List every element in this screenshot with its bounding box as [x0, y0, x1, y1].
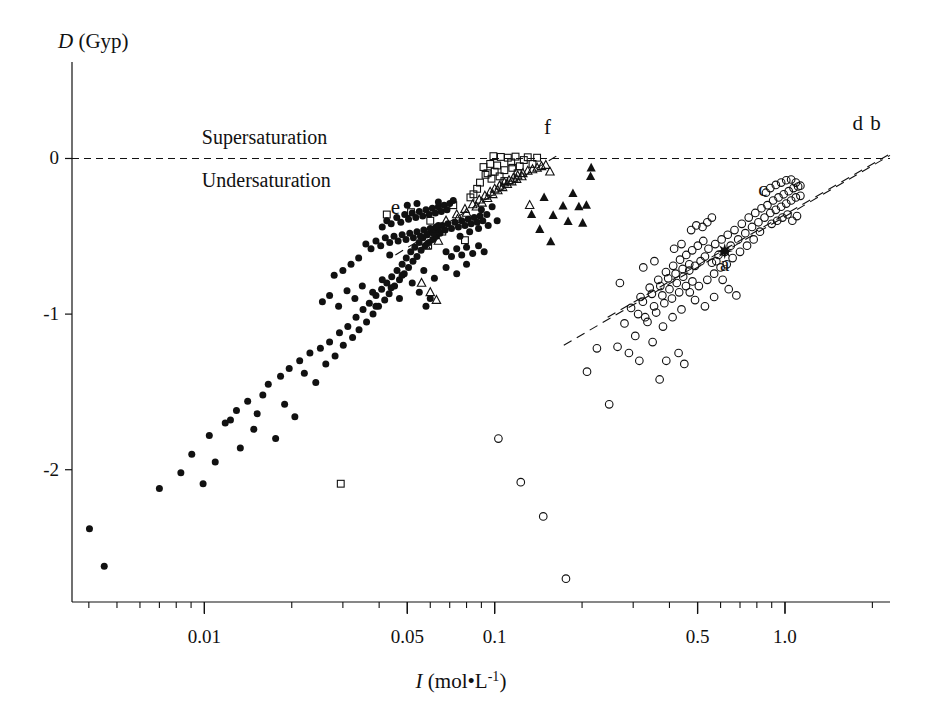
point-filled-circle	[227, 416, 234, 423]
point-filled-circle	[399, 261, 406, 268]
series-open-circle	[495, 176, 805, 583]
point-open-circle	[708, 214, 716, 222]
point-filled-circle	[322, 360, 329, 367]
point-open-circle	[670, 245, 678, 253]
point-filled-circle	[455, 223, 462, 230]
point-open-square	[337, 480, 344, 487]
point-filled-circle	[259, 392, 266, 399]
point-open-circle	[639, 264, 647, 272]
point-filled-circle	[443, 264, 450, 271]
point-open-circle	[738, 220, 746, 228]
point-filled-circle	[86, 525, 93, 532]
point-open-circle	[743, 242, 751, 250]
point-open-circle	[793, 212, 801, 220]
point-open-triangle	[525, 201, 533, 209]
point-filled-circle	[366, 300, 373, 307]
point-filled-circle	[370, 311, 377, 318]
point-filled-circle	[410, 234, 417, 241]
point-filled-circle	[413, 200, 420, 207]
point-filled-circle	[265, 381, 272, 388]
point-filled-circle	[336, 329, 343, 336]
point-filled-circle	[286, 365, 293, 372]
point-open-circle	[625, 349, 633, 357]
point-open-circle	[621, 320, 629, 328]
point-filled-circle	[388, 284, 395, 291]
point-filled-triangle	[540, 192, 549, 201]
point-filled-circle	[405, 264, 412, 271]
point-open-circle	[644, 318, 652, 326]
point-filled-triangle	[574, 202, 583, 211]
point-filled-circle	[306, 350, 313, 357]
point-open-circle	[637, 293, 645, 301]
point-filled-circle	[360, 306, 367, 313]
point-filled-triangle	[535, 224, 544, 233]
point-filled-circle	[339, 267, 346, 274]
point-filled-circle	[317, 345, 324, 352]
point-filled-circle	[443, 248, 450, 255]
point-filled-circle	[431, 275, 438, 282]
point-filled-circle	[386, 251, 393, 258]
point-open-circle	[797, 192, 805, 200]
point-filled-circle	[326, 292, 333, 299]
point-filled-circle	[244, 398, 251, 405]
point-open-circle	[661, 299, 669, 307]
series-label-d: d	[852, 111, 863, 135]
point-filled-circle	[403, 255, 410, 262]
point-filled-circle	[379, 276, 386, 283]
point-filled-circle	[424, 231, 431, 238]
point-filled-circle	[206, 432, 213, 439]
point-filled-circle	[468, 220, 475, 227]
series-label-a: a	[720, 252, 730, 276]
point-open-square	[497, 154, 504, 161]
point-open-square	[487, 161, 494, 168]
point-open-circle	[710, 293, 718, 301]
point-open-circle	[641, 313, 649, 321]
point-open-square	[383, 211, 390, 218]
point-filled-circle	[458, 251, 465, 258]
point-open-circle	[627, 304, 635, 312]
point-filled-circle	[417, 233, 424, 240]
point-filled-circle	[463, 244, 470, 251]
point-filled-triangle	[568, 188, 577, 197]
x-axis-title: I (mol•L-1)	[415, 669, 507, 694]
point-filled-circle	[348, 261, 355, 268]
scatter-plot-svg: 0-1-20.010.050.10.51.0 SupersaturationUn…	[0, 0, 925, 702]
point-filled-circle	[177, 469, 184, 476]
point-filled-circle	[489, 203, 496, 210]
point-open-circle	[736, 248, 744, 256]
point-filled-circle	[403, 236, 410, 243]
point-open-circle	[686, 289, 694, 297]
series-label-c: c	[758, 177, 767, 201]
undersaturation-label: Undersaturation	[202, 169, 331, 191]
point-filled-circle	[212, 458, 219, 465]
point-filled-circle	[296, 357, 303, 364]
point-filled-circle	[156, 485, 163, 492]
point-open-circle	[703, 218, 711, 226]
series-filled-triangle	[527, 163, 596, 246]
point-open-circle	[666, 285, 674, 293]
point-filled-circle	[448, 253, 455, 260]
point-open-circle	[699, 237, 707, 245]
point-open-circle	[733, 292, 741, 300]
point-open-circle	[750, 236, 758, 244]
point-filled-circle	[101, 563, 108, 570]
point-filled-circle	[359, 283, 366, 290]
axes-layer: 0-1-20.010.050.10.51.0	[43, 62, 890, 647]
point-filled-circle	[281, 401, 288, 408]
point-filled-circle	[435, 199, 442, 206]
point-open-circle	[659, 292, 667, 300]
point-filled-triangle	[582, 200, 591, 209]
point-filled-circle	[466, 228, 473, 235]
y-tick-label: -1	[43, 303, 59, 324]
point-open-circle	[636, 357, 644, 365]
point-filled-circle	[344, 287, 351, 294]
point-filled-circle	[420, 267, 427, 274]
point-filled-triangle	[527, 210, 536, 219]
point-filled-circle	[453, 245, 460, 252]
x-tick-label: 0.5	[686, 626, 710, 647]
point-open-circle	[724, 231, 732, 239]
point-open-circle	[651, 257, 659, 265]
point-open-circle	[649, 338, 657, 346]
point-open-circle	[669, 313, 677, 321]
point-filled-circle	[237, 444, 244, 451]
